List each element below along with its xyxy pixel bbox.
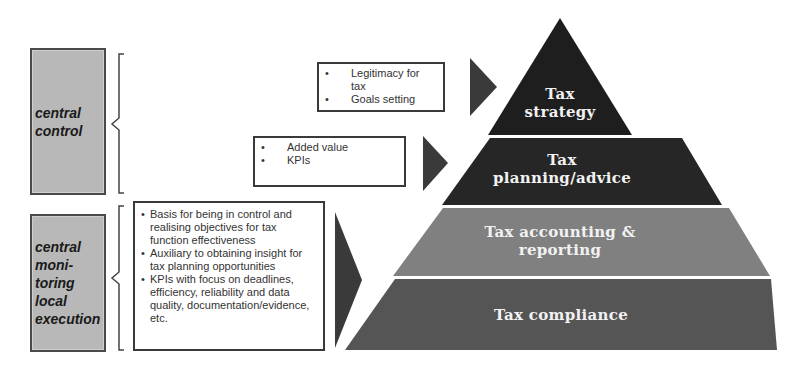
note-item: •Auxiliary to obtaining insight for tax …: [141, 247, 317, 273]
note-item: •Added value: [261, 141, 398, 154]
arrow-operational: [335, 212, 362, 348]
note-item: •KPIs with focus on deadlines, efficienc…: [141, 273, 317, 325]
tier-label-accounting: Tax accounting & reporting: [485, 223, 636, 259]
note-item: •Basis for being in control and realisin…: [141, 208, 317, 247]
note-operational: •Basis for being in control and realisin…: [133, 201, 325, 351]
note-strategy: •Legitimacy for tax •Goals setting: [317, 62, 445, 112]
note-planning: •Added value •KPIs: [253, 136, 406, 187]
note-item: •Goals setting: [325, 93, 437, 106]
bracket-central-control: [112, 54, 124, 193]
tier-label-planning: Tax planning/advice: [493, 151, 631, 187]
note-item: •Legitimacy for tax: [325, 67, 437, 93]
note-item: •KPIs: [261, 154, 398, 167]
arrow-planning: [423, 136, 448, 191]
tier-label-compliance: Tax compliance: [494, 306, 628, 324]
bracket-central-monitoring: [112, 206, 124, 350]
arrow-strategy: [470, 58, 497, 116]
tier-label-strategy: Tax strategy: [524, 85, 595, 121]
